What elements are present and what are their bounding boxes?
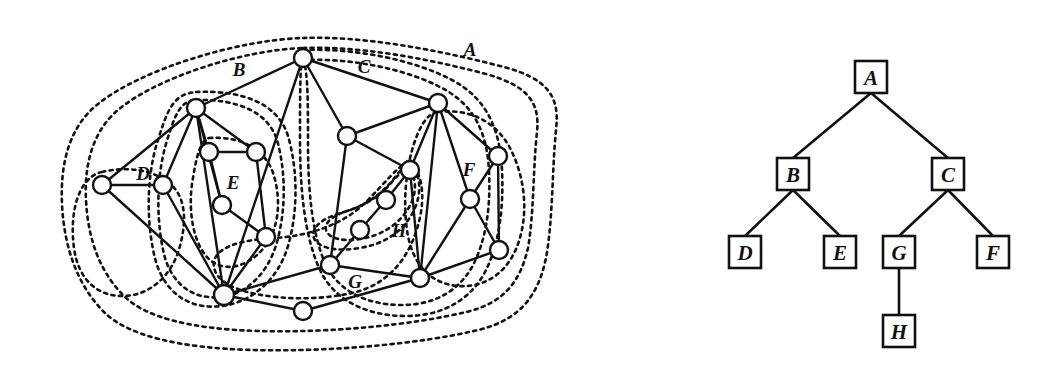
graph-vertex[interactable] <box>154 176 172 194</box>
tree-node-label: F <box>985 241 1000 265</box>
tree-node-label: H <box>890 320 908 344</box>
region-label-d: D <box>135 163 150 184</box>
graph-vertex[interactable] <box>461 190 479 208</box>
tree-edges-layer <box>745 93 993 315</box>
graph-edge <box>163 108 196 185</box>
graph-vertex[interactable] <box>489 147 507 165</box>
tree-node-d[interactable]: D <box>729 236 761 268</box>
tree-node-a[interactable]: A <box>855 61 887 93</box>
graph-vertex[interactable] <box>490 241 508 259</box>
region-label-h: H <box>391 220 408 241</box>
region-label-g: G <box>348 271 362 292</box>
tree-nodes-layer: ABCDEGFH <box>729 61 1009 347</box>
graph-vertex[interactable] <box>93 176 111 194</box>
region-label-b: B <box>232 59 246 80</box>
graph-vertex[interactable] <box>377 191 395 209</box>
tree-node-e[interactable]: E <box>824 236 856 268</box>
tree-node-label: A <box>862 66 878 90</box>
graph-vertex[interactable] <box>247 143 265 161</box>
tree-edge <box>871 93 948 158</box>
graph-vertex[interactable] <box>351 221 369 239</box>
region-label-f: F <box>462 159 476 180</box>
graph-vertex[interactable] <box>338 127 356 145</box>
tree-node-f[interactable]: F <box>977 236 1009 268</box>
graph-vertex[interactable] <box>294 49 312 67</box>
tree-node-h[interactable]: H <box>883 315 915 347</box>
region-label-a: A <box>463 39 477 60</box>
graph-edge <box>330 265 420 278</box>
graph-edge <box>330 136 347 265</box>
graph-vertex[interactable] <box>213 196 231 214</box>
tree-node-label: C <box>941 163 956 187</box>
tree-node-c[interactable]: C <box>932 158 964 190</box>
tree-node-label: D <box>736 241 752 265</box>
graph-vertex[interactable] <box>411 269 429 287</box>
tree-node-label: G <box>891 241 906 265</box>
graph-edge <box>347 103 438 136</box>
graph-vertex[interactable] <box>187 99 205 117</box>
graph-vertex[interactable] <box>294 302 312 320</box>
graph-vertex[interactable] <box>429 94 447 112</box>
tree-edge <box>793 93 871 158</box>
graph-vertex[interactable] <box>200 143 218 161</box>
figure-root: ABCDEFGH ABCDEGFH <box>0 0 1058 388</box>
graph-vertex[interactable] <box>401 161 419 179</box>
tree-edge <box>745 190 793 236</box>
tree-edge <box>899 190 948 236</box>
tree-edge <box>948 190 993 236</box>
graph-vertex[interactable] <box>321 256 339 274</box>
graph-vertex[interactable] <box>257 228 275 246</box>
tree-node-label: B <box>785 163 800 187</box>
tree-node-b[interactable]: B <box>777 158 809 190</box>
region-label-e: E <box>226 172 240 193</box>
graph-edge <box>347 136 410 170</box>
graph-vertex[interactable] <box>214 285 234 305</box>
graph-edge <box>420 250 499 278</box>
tree-node-g[interactable]: G <box>883 236 915 268</box>
tree-node-label: E <box>832 241 847 265</box>
graph-edge <box>498 156 499 250</box>
region-label-c: C <box>358 56 371 77</box>
tree-edge <box>793 190 840 236</box>
figure-canvas: ABCDEFGH ABCDEGFH <box>0 0 1058 388</box>
